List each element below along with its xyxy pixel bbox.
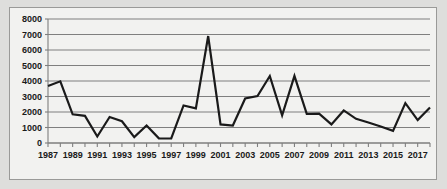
x-tick-label: 2015	[383, 150, 403, 160]
y-tick-label: 1000	[22, 123, 42, 133]
x-tick-label: 1997	[161, 150, 181, 160]
line-chart: 010002000300040005000600070008000 198719…	[10, 8, 436, 179]
y-tick-label: 6000	[22, 45, 42, 55]
x-tick-label: 1999	[186, 150, 206, 160]
x-tick-label: 1995	[137, 150, 157, 160]
y-tick-label: 4000	[22, 76, 42, 86]
y-tick-label: 7000	[22, 30, 42, 40]
y-tick-label: 8000	[22, 14, 42, 24]
x-tick-label: 2003	[235, 150, 255, 160]
x-tick-label: 2005	[260, 150, 280, 160]
y-tick-label: 5000	[22, 61, 42, 71]
y-axis-tick-labels: 010002000300040005000600070008000	[22, 14, 42, 148]
chart-canvas: 010002000300040005000600070008000 198719…	[10, 8, 436, 179]
x-tick-label: 1987	[38, 150, 58, 160]
x-tick-label: 2007	[284, 150, 304, 160]
chart-frame: 010002000300040005000600070008000 198719…	[9, 7, 437, 180]
x-tick-label: 2017	[408, 150, 428, 160]
y-tick-label: 0	[37, 138, 42, 148]
y-tick-label: 2000	[22, 107, 42, 117]
x-tick-label: 2009	[309, 150, 329, 160]
y-tick-label: 3000	[22, 92, 42, 102]
x-tick-label: 1991	[87, 150, 107, 160]
x-tick-label: 2013	[358, 150, 378, 160]
x-tick-label: 2001	[211, 150, 231, 160]
x-tick-label: 1993	[112, 150, 132, 160]
x-tick-label: 2011	[334, 150, 354, 160]
x-tick-label: 1989	[63, 150, 83, 160]
